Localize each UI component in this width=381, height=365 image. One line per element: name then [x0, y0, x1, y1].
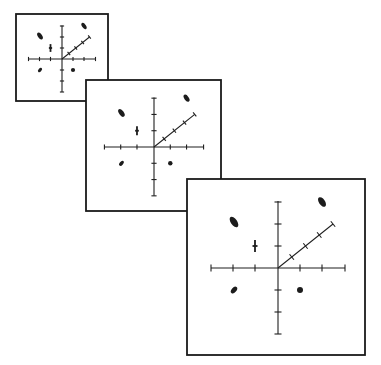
diagram-canvas: [0, 0, 381, 365]
panel-layer: [16, 14, 365, 355]
lower-right-dot: [168, 161, 172, 165]
lower-right-dot: [71, 68, 75, 72]
panel-frame: [187, 179, 365, 355]
panel-large: [187, 179, 365, 355]
lower-right-dot: [297, 287, 303, 293]
